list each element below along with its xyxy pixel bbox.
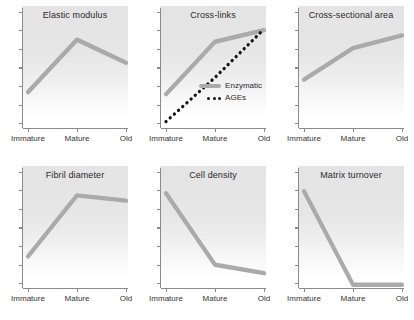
x-axis-label: Mature bbox=[341, 134, 366, 143]
legend-entry: AGEs bbox=[199, 92, 262, 104]
plot-canvas bbox=[22, 6, 128, 130]
x-axis-label: Immature bbox=[11, 134, 45, 143]
plot-canvas bbox=[160, 166, 266, 290]
x-axis-label: Old bbox=[120, 294, 132, 303]
plot-canvas bbox=[160, 6, 266, 130]
x-axis-labels: ImmatureMatureOld bbox=[298, 134, 404, 148]
chart-panel: Cross-linksEnzymaticAGEsImmatureMatureOl… bbox=[138, 0, 276, 160]
x-axis-label: Old bbox=[258, 134, 270, 143]
x-axis-label: Immature bbox=[149, 294, 183, 303]
panel-grid: Elastic modulusImmatureMatureOldCross-li… bbox=[0, 0, 414, 320]
chart-panel: Fibril diameterImmatureMatureOld bbox=[0, 160, 138, 320]
x-axis-label: Mature bbox=[65, 294, 90, 303]
plot-area: Matrix turnover bbox=[298, 166, 404, 290]
chart-panel: Matrix turnoverImmatureMatureOld bbox=[276, 160, 414, 320]
x-axis-labels: ImmatureMatureOld bbox=[22, 294, 128, 308]
legend-dot-icon bbox=[207, 97, 210, 100]
x-axis-label: Mature bbox=[203, 294, 228, 303]
x-axis-label: Old bbox=[396, 294, 408, 303]
legend-dotted-swatch-icon bbox=[199, 92, 221, 104]
legend-entry: Enzymatic bbox=[199, 80, 262, 92]
series-line-enzymatic bbox=[28, 40, 126, 93]
legend: EnzymaticAGEs bbox=[199, 80, 262, 104]
plot-canvas bbox=[298, 166, 404, 290]
series-line-enzymatic bbox=[28, 195, 126, 256]
legend-label: Enzymatic bbox=[225, 80, 262, 92]
chart-panel: Cross-sectional areaImmatureMatureOld bbox=[276, 0, 414, 160]
x-axis-label: Old bbox=[120, 134, 132, 143]
legend-line-swatch-icon bbox=[199, 80, 221, 92]
chart-panel: Elastic modulusImmatureMatureOld bbox=[0, 0, 138, 160]
plot-area: Cross-linksEnzymaticAGEs bbox=[160, 6, 266, 130]
plot-area: Fibril diameter bbox=[22, 166, 128, 290]
x-axis-label: Immature bbox=[287, 294, 321, 303]
x-axis-labels: ImmatureMatureOld bbox=[160, 134, 266, 148]
x-axis-label: Mature bbox=[65, 134, 90, 143]
series-line-enzymatic bbox=[304, 191, 402, 285]
plot-canvas bbox=[298, 6, 404, 130]
x-axis-label: Mature bbox=[203, 134, 228, 143]
legend-dot-icon bbox=[218, 97, 221, 100]
x-axis-label: Old bbox=[396, 134, 408, 143]
chart-panel: Cell densityImmatureMatureOld bbox=[138, 160, 276, 320]
x-axis-labels: ImmatureMatureOld bbox=[22, 134, 128, 148]
x-axis-label: Immature bbox=[149, 134, 183, 143]
x-axis-label: Old bbox=[258, 294, 270, 303]
plot-area: Cell density bbox=[160, 166, 266, 290]
x-axis-label: Immature bbox=[11, 294, 45, 303]
x-axis-label: Immature bbox=[287, 134, 321, 143]
plot-canvas bbox=[22, 166, 128, 290]
plot-area: Cross-sectional area bbox=[298, 6, 404, 130]
plot-area: Elastic modulus bbox=[22, 6, 128, 130]
x-axis-labels: ImmatureMatureOld bbox=[160, 294, 266, 308]
figure-root: Elastic modulusImmatureMatureOldCross-li… bbox=[0, 0, 414, 320]
legend-label: AGEs bbox=[225, 92, 246, 104]
series-line-enzymatic bbox=[166, 193, 264, 273]
x-axis-labels: ImmatureMatureOld bbox=[298, 294, 404, 308]
series-line-enzymatic bbox=[304, 35, 402, 79]
legend-dot-icon bbox=[213, 97, 216, 100]
x-axis-label: Mature bbox=[341, 294, 366, 303]
